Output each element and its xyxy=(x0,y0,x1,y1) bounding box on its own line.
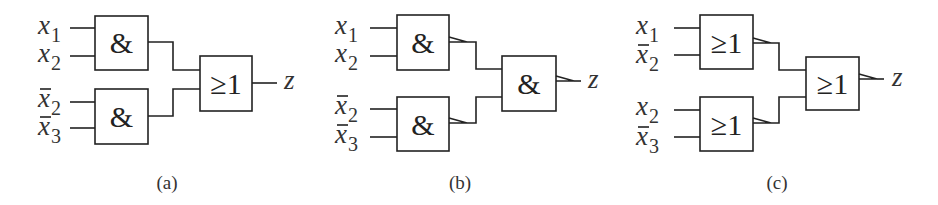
output-label-z: z xyxy=(891,62,903,92)
wire xyxy=(771,97,806,123)
diagram-a: x1 x2 x2 x3 & & xyxy=(37,10,295,194)
wire xyxy=(148,42,200,70)
and-gate-final: & xyxy=(502,56,556,111)
svg-text:&: & xyxy=(110,100,133,133)
diagram-b: x1 x2 x2 x3 & & & xyxy=(334,10,599,194)
inversion-wedge-icon xyxy=(449,37,467,42)
caption-c: (c) xyxy=(766,172,787,194)
inversion-wedge-icon xyxy=(449,118,467,123)
or-gate-final: ≥1 xyxy=(806,57,859,110)
inversion-wedge-icon xyxy=(753,38,771,43)
inversion-wedge-icon xyxy=(859,74,877,79)
wire xyxy=(467,42,502,69)
svg-text:&: & xyxy=(411,26,434,59)
caption-b: (b) xyxy=(449,172,471,194)
wire xyxy=(771,43,806,70)
and-gate-top: & xyxy=(95,16,148,70)
svg-text:≥1: ≥1 xyxy=(210,67,241,100)
wire xyxy=(148,89,200,116)
svg-text:≥1: ≥1 xyxy=(711,108,742,141)
svg-text:&: & xyxy=(411,108,434,141)
and-gate-bottom: & xyxy=(95,89,148,144)
svg-text:≥1: ≥1 xyxy=(817,67,848,100)
or-gate-top: ≥1 xyxy=(700,15,753,69)
svg-text:≥1: ≥1 xyxy=(711,26,742,59)
or-gate-bottom: ≥1 xyxy=(700,97,753,151)
output-label-z: z xyxy=(283,65,295,95)
inversion-wedge-icon xyxy=(556,76,574,81)
caption-a: (a) xyxy=(156,172,177,194)
diagram-c: x1 x2 x2 x3 ≥1 ≥1 ≥1 xyxy=(635,10,903,194)
svg-text:&: & xyxy=(110,26,133,59)
and-gate-top: & xyxy=(397,15,449,70)
inversion-wedge-icon xyxy=(753,118,771,123)
output-label-z: z xyxy=(587,64,599,94)
and-gate-bottom: & xyxy=(397,97,449,151)
svg-text:&: & xyxy=(517,67,540,100)
wire xyxy=(467,97,502,123)
or-gate-final: ≥1 xyxy=(200,56,252,111)
